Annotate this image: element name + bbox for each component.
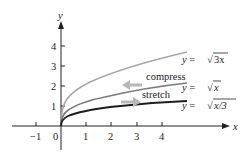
y-axis-arrow-icon [58, 21, 64, 29]
svg-text:√: √ [207, 54, 213, 65]
svg-text:3x: 3x [214, 54, 225, 65]
tick-label-x: 1 [83, 131, 88, 142]
tick-label-x: 0 [53, 131, 58, 142]
svg-text:√: √ [207, 100, 213, 111]
svg-text:√: √ [207, 82, 213, 93]
tick-label-x: 3 [134, 131, 139, 142]
tick-label-x: −1 [30, 131, 41, 142]
tick-label-x: 4 [159, 131, 165, 142]
curve-bot-label: y = √ x/3 [181, 99, 236, 111]
compress-arrow-icon [122, 80, 142, 90]
x-axis-label: x [232, 121, 238, 132]
compress-label: compress [146, 71, 186, 82]
tick-label-x: 2 [108, 131, 113, 142]
curve-top-label: y = √ 3x [181, 53, 228, 65]
x-axis-arrow-icon [222, 123, 230, 129]
x-ticks [36, 122, 162, 126]
y-axis-label: y [57, 10, 63, 21]
svg-text:y =: y = [181, 82, 195, 93]
stretch-label: stretch [142, 89, 171, 100]
tick-label-y: 2 [51, 81, 56, 92]
chart: −1 0 1 2 3 4 1 2 3 4 y x compress stretc… [0, 0, 242, 156]
y-ticks [61, 46, 65, 106]
tick-label-y: 3 [51, 61, 56, 72]
tick-label-y: 4 [51, 41, 57, 52]
svg-text:y =: y = [181, 100, 195, 111]
svg-text:x: x [213, 82, 219, 93]
tick-label-y: 1 [51, 101, 56, 112]
svg-text:y =: y = [181, 54, 195, 65]
svg-text:x/3: x/3 [213, 100, 227, 111]
curve-mid-label: y = √ x [181, 81, 221, 93]
